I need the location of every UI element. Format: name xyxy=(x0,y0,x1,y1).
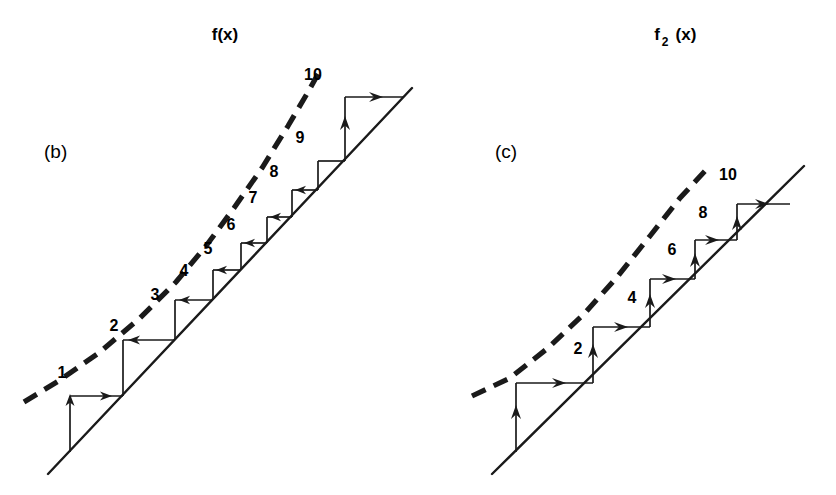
step-label-3: 3 xyxy=(151,286,160,303)
step-label-5: 5 xyxy=(204,240,213,257)
panel-b-function-curve xyxy=(24,74,318,402)
step-label-6: 6 xyxy=(668,241,677,258)
step-label-6: 6 xyxy=(227,216,236,233)
panel-c-function-title-arg: (x) xyxy=(676,25,697,44)
panel-c-function-curve xyxy=(472,170,706,396)
step-label-4: 4 xyxy=(180,262,189,279)
step-label-4: 4 xyxy=(628,289,637,306)
panel-c-caption: (c) xyxy=(495,141,517,162)
step-label-10: 10 xyxy=(304,66,322,83)
step-label-2: 2 xyxy=(574,340,583,357)
panel-b-identity-line xyxy=(48,88,412,474)
panel-b-caption: (b) xyxy=(44,141,67,162)
step-label-1: 1 xyxy=(58,364,67,381)
panel-c-function-title: f 2 (x) xyxy=(654,25,696,49)
cobweb-figure: f(x) (b) xyxy=(0,0,836,495)
panel-c: f 2 (x) (c) xyxy=(472,25,804,474)
step-label-2: 2 xyxy=(110,317,119,334)
panel-c-function-title-base: f xyxy=(654,25,660,44)
step-label-7: 7 xyxy=(249,189,258,206)
step-label-8: 8 xyxy=(270,163,279,180)
panel-c-function-title-subscript: 2 xyxy=(662,35,669,49)
panel-b-function-title: f(x) xyxy=(212,25,238,44)
panel-c-identity-line xyxy=(492,166,804,474)
panel-b-cobweb-path xyxy=(66,92,404,452)
panel-c-step-labels: 2 4 6 8 10 xyxy=(574,166,737,357)
panel-b-step-labels: 1 2 3 4 5 6 7 8 9 10 xyxy=(58,66,322,381)
panel-b: f(x) (b) xyxy=(24,25,412,474)
step-label-9: 9 xyxy=(296,129,305,146)
figure-root: f(x) (b) xyxy=(0,0,836,495)
step-label-8: 8 xyxy=(699,204,708,221)
step-label-10: 10 xyxy=(719,166,737,183)
